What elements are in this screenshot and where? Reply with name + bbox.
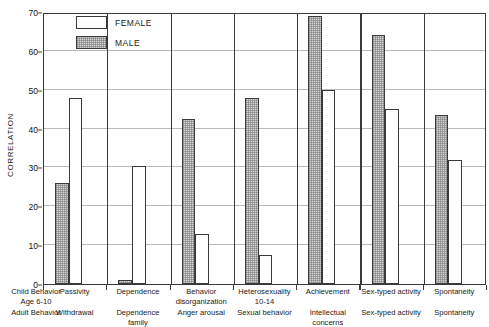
x-tick-mark bbox=[43, 285, 44, 290]
x-group-child-sublabel: disorganization bbox=[170, 297, 233, 307]
legend: FEMALE MALE bbox=[76, 16, 152, 56]
x-axis-labels: Child BehaviorAge 6-10Adult BehaviorPass… bbox=[0, 287, 489, 325]
y-tick-label: 30 bbox=[4, 163, 38, 173]
legend-item-female: FEMALE bbox=[76, 16, 152, 29]
gridline bbox=[44, 166, 485, 167]
group-divider bbox=[360, 14, 361, 284]
bar-female bbox=[132, 166, 146, 285]
x-tick-mark bbox=[233, 285, 234, 290]
group-divider bbox=[171, 14, 172, 284]
x-tick-mark bbox=[170, 285, 171, 290]
x-tick-mark bbox=[423, 285, 424, 290]
x-tick-mark bbox=[106, 285, 107, 290]
x-tick-mark bbox=[296, 285, 297, 290]
bar-male bbox=[435, 115, 449, 284]
group-divider bbox=[234, 14, 235, 284]
bar-female bbox=[195, 234, 209, 285]
legend-item-male: MALE bbox=[76, 36, 152, 49]
legend-swatch-female bbox=[76, 16, 107, 29]
x-group-adult-label: Intellectual bbox=[296, 308, 359, 318]
x-group-child-sublabel: 10-14 bbox=[233, 297, 296, 307]
y-tick-mark bbox=[38, 285, 42, 286]
x-group-label: PassivityWithdrawal bbox=[43, 287, 106, 318]
x-group-label: SpontaneitySpontaneity bbox=[423, 287, 486, 318]
x-group-child-label: Dependence bbox=[106, 287, 169, 297]
x-group-child-label: Behavior bbox=[170, 287, 233, 297]
x-group-child-label: Spontaneity bbox=[423, 287, 486, 297]
bar-male bbox=[118, 280, 132, 284]
bar-female bbox=[448, 160, 462, 284]
y-tick-label: 70 bbox=[4, 8, 38, 18]
y-tick-mark bbox=[38, 168, 42, 169]
x-group-label: Heterosexuality10-14Sexual behavior bbox=[233, 287, 296, 318]
y-tick-label: 60 bbox=[4, 47, 38, 57]
x-group-child-label: Heterosexuality bbox=[233, 287, 296, 297]
y-tick-mark bbox=[38, 51, 42, 52]
bar-female bbox=[259, 255, 273, 284]
x-group-child-label: Passivity bbox=[43, 287, 106, 297]
x-group-adult-label: Sex-typed activity bbox=[359, 308, 422, 318]
x-group-adult-sublabel: concerns bbox=[296, 318, 359, 327]
y-tick-mark bbox=[38, 207, 42, 208]
bar-male bbox=[55, 183, 69, 284]
x-group-label: BehaviordisorganizationAnger arousal bbox=[170, 287, 233, 318]
legend-swatch-male bbox=[76, 36, 107, 49]
y-tick-label: 50 bbox=[4, 86, 38, 96]
y-tick-label: 20 bbox=[4, 202, 38, 212]
legend-label-male: MALE bbox=[115, 38, 140, 48]
legend-label-female: FEMALE bbox=[115, 18, 152, 28]
x-group-label: DependenceDependencefamily bbox=[106, 287, 169, 327]
gridline bbox=[44, 128, 485, 129]
y-tick-label: 40 bbox=[4, 125, 38, 135]
x-group-child-label: Sex-typed activity bbox=[359, 287, 422, 297]
x-group-adult-label: Withdrawal bbox=[43, 308, 106, 318]
x-group-adult-label: Sexual behavior bbox=[233, 308, 296, 318]
x-group-label: Sex-typed activitySex-typed activity bbox=[359, 287, 422, 318]
bar-male bbox=[182, 119, 196, 284]
bar-male bbox=[245, 98, 259, 285]
group-divider bbox=[297, 14, 298, 284]
x-group-adult-sublabel: family bbox=[106, 318, 169, 327]
y-tick-label: 10 bbox=[4, 241, 38, 251]
x-group-adult-label: Spontaneity bbox=[423, 308, 486, 318]
bar-male bbox=[372, 35, 386, 284]
y-tick-mark bbox=[38, 246, 42, 247]
gridline bbox=[44, 89, 485, 90]
y-tick-mark bbox=[38, 13, 42, 14]
x-tick-mark bbox=[486, 285, 487, 290]
x-group-adult-label: Dependence bbox=[106, 308, 169, 318]
bar-female bbox=[69, 98, 83, 285]
x-group-child-label: Achievement bbox=[296, 287, 359, 297]
gridline bbox=[44, 205, 485, 206]
x-tick-mark bbox=[359, 285, 360, 290]
y-tick-mark bbox=[38, 90, 42, 91]
bar-female bbox=[322, 90, 336, 284]
bar-female bbox=[385, 109, 399, 284]
x-group-adult-label: Anger arousal bbox=[170, 308, 233, 318]
y-tick-mark bbox=[38, 129, 42, 130]
x-group-label: AchievementIntellectualconcerns bbox=[296, 287, 359, 327]
bar-male bbox=[308, 16, 322, 284]
gridline bbox=[44, 244, 485, 245]
y-axis-ticks: 010203040506070 bbox=[0, 0, 38, 325]
group-divider bbox=[424, 14, 425, 284]
